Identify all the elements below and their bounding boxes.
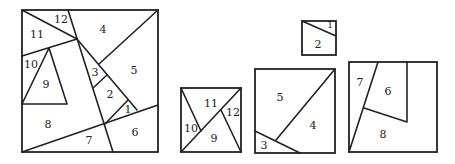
cut-4-5 [99,10,158,64]
square-3-5: 5 4 3 [255,69,335,153]
label-12: 12 [226,106,240,119]
dissection-diagram: 11 12 4 10 9 3 5 2 1 8 7 6 11 10 12 9 5 … [0,0,455,164]
label-2: 2 [315,38,322,51]
square-6-8: 7 6 8 [349,62,437,152]
label-5: 5 [131,64,138,77]
main-square: 11 12 4 10 9 3 5 2 1 8 7 6 [22,10,158,152]
label-4: 4 [310,119,317,132]
label-6: 6 [385,85,392,98]
label-1: 1 [327,20,333,30]
label-7: 7 [86,134,93,147]
label-11: 11 [30,28,44,41]
label-5: 5 [277,91,284,104]
cut-4-5 [276,69,335,140]
label-3: 3 [261,139,268,152]
label-8: 8 [380,128,387,141]
cut-7 [349,62,378,152]
label-12: 12 [54,13,68,26]
label-3: 3 [92,66,99,79]
label-1: 1 [125,103,132,116]
label-10: 10 [24,58,38,71]
label-7: 7 [357,76,364,89]
label-8: 8 [45,118,52,131]
label-4: 4 [100,23,107,36]
label-10: 10 [184,122,198,135]
label-9: 9 [43,78,50,91]
square-1-2: 1 2 [302,20,336,55]
label-2: 2 [107,88,114,101]
square-9-12: 11 10 12 9 [181,88,241,152]
piece-9-outline [22,48,67,104]
label-11: 11 [204,97,218,110]
label-6: 6 [132,126,139,139]
label-9: 9 [211,132,218,145]
